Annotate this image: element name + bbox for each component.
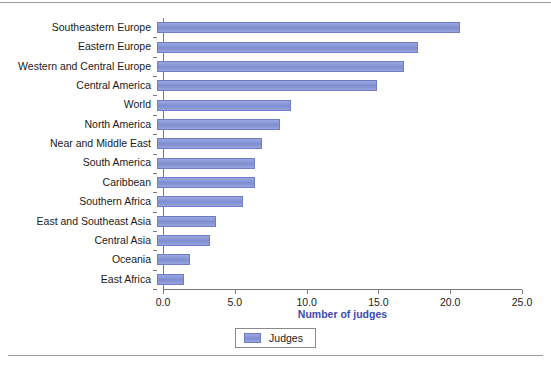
bar-track [157, 115, 516, 134]
x-axis-title: Number of judges [163, 308, 522, 320]
category-label: Caribbean [0, 177, 157, 189]
bar [157, 100, 291, 111]
bar [157, 235, 210, 246]
category-label: East Africa [0, 274, 157, 286]
x-axis-tick [163, 290, 164, 294]
bar [157, 80, 377, 91]
chart-legend: Judges [0, 328, 551, 348]
bar [157, 61, 404, 72]
category-label: Eastern Europe [0, 41, 157, 53]
x-axis-tick [307, 290, 308, 294]
bar [157, 138, 262, 149]
bar-row: Eastern Europe [0, 37, 551, 56]
x-axis-tick [378, 290, 379, 294]
bottom-divider [8, 355, 543, 356]
category-label: Western and Central Europe [0, 61, 157, 73]
x-axis-tick-label: 10.0 [296, 296, 316, 308]
bar-track [157, 173, 516, 192]
bar-track [157, 95, 516, 114]
legend-label-judges: Judges [269, 332, 303, 344]
category-label: East and Southeast Asia [0, 216, 157, 228]
bar-row: World [0, 95, 551, 114]
bar-track [157, 231, 516, 250]
bar-track [157, 192, 516, 211]
bar-row: East and Southeast Asia [0, 212, 551, 231]
category-label: Oceania [0, 254, 157, 266]
y-axis-tick [153, 289, 157, 290]
x-axis-tick-label: 5.0 [227, 296, 242, 308]
x-axis-tick [235, 290, 236, 294]
bar [157, 42, 418, 53]
bar-row: South America [0, 154, 551, 173]
bar-row: East Africa [0, 270, 551, 289]
category-label: World [0, 99, 157, 111]
bar [157, 158, 255, 169]
bar-track [157, 250, 516, 269]
x-axis-tick-label: 20.0 [440, 296, 460, 308]
bar-row: Central Asia [0, 231, 551, 250]
bar [157, 119, 280, 130]
bar [157, 22, 460, 33]
bar-track [157, 57, 516, 76]
bar-chart: Southeastern EuropeEastern EuropeWestern… [0, 8, 551, 308]
bar-row: Oceania [0, 250, 551, 269]
x-axis-tick [522, 290, 523, 294]
x-axis-tick-label: 0.0 [156, 296, 171, 308]
legend-box: Judges [235, 328, 316, 348]
bar-row: North America [0, 115, 551, 134]
category-label: Central Asia [0, 235, 157, 247]
x-axis-tick-label: 25.0 [512, 296, 532, 308]
bar [157, 216, 216, 227]
category-label: Southern Africa [0, 196, 157, 208]
bar-track [157, 134, 516, 153]
x-axis-tick-label: 15.0 [368, 296, 388, 308]
category-label: Near and Middle East [0, 138, 157, 150]
bar [157, 196, 243, 207]
bar [157, 254, 190, 265]
legend-swatch-judges [244, 333, 261, 343]
bar-row: Caribbean [0, 173, 551, 192]
bar-rows: Southeastern EuropeEastern EuropeWestern… [0, 18, 551, 289]
bar-track [157, 212, 516, 231]
bar [157, 274, 184, 285]
category-label: North America [0, 119, 157, 131]
bar-row: Southeastern Europe [0, 18, 551, 37]
bar-row: Western and Central Europe [0, 57, 551, 76]
bar-row: Central America [0, 76, 551, 95]
bar-track [157, 18, 516, 37]
bar-track [157, 270, 516, 289]
bar-track [157, 37, 516, 56]
bar-track [157, 154, 516, 173]
x-axis-tick [450, 290, 451, 294]
top-divider [0, 2, 551, 3]
bar [157, 177, 255, 188]
category-label: Central America [0, 80, 157, 92]
bar-track [157, 76, 516, 95]
bar-row: Southern Africa [0, 192, 551, 211]
category-label: South America [0, 157, 157, 169]
category-label: Southeastern Europe [0, 22, 157, 34]
bar-row: Near and Middle East [0, 134, 551, 153]
